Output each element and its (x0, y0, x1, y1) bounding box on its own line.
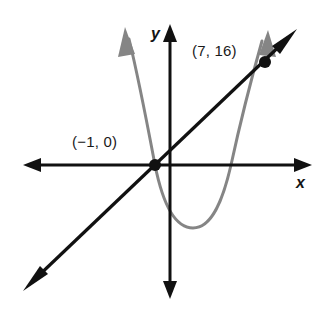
x-axis-label: x (296, 175, 305, 191)
point-marker-minus1-0 (149, 159, 161, 171)
y-axis-top-arrowhead (163, 24, 177, 42)
point-marker-7-16 (259, 56, 271, 68)
straight-line-group (23, 29, 297, 291)
x-axis-left-arrowhead (23, 158, 41, 172)
x-axis-right-arrowhead (294, 158, 312, 172)
straight-line (33, 38, 288, 281)
point-label-7-16: (7, 16) (192, 43, 237, 58)
y-axis-label: y (151, 26, 160, 42)
parabola-curve (129, 39, 262, 228)
y-axis-group (163, 24, 177, 299)
x-axis-group (23, 158, 312, 172)
point-label-minus1-0: (−1, 0) (72, 134, 117, 149)
coordinate-plane-svg (0, 0, 320, 312)
graph-figure: y x (−1, 0) (7, 16) (0, 0, 320, 312)
y-axis-bottom-arrowhead (163, 281, 177, 299)
parabola-left-arrowhead (118, 27, 135, 57)
